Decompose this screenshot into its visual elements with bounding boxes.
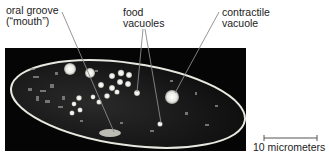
contractile-vacuole-body bbox=[165, 90, 179, 104]
oral-groove-region bbox=[99, 129, 121, 137]
contractile-vacuole-label: contractile vacuole bbox=[222, 7, 270, 29]
vacuole bbox=[64, 63, 76, 75]
food-vacuoles-label: food vacuoles bbox=[123, 7, 164, 29]
cell-body bbox=[5, 47, 250, 156]
scale-bar-label: 10 micrometers bbox=[253, 141, 325, 153]
oral-groove-label: oral groove (“mouth”) bbox=[6, 5, 59, 27]
